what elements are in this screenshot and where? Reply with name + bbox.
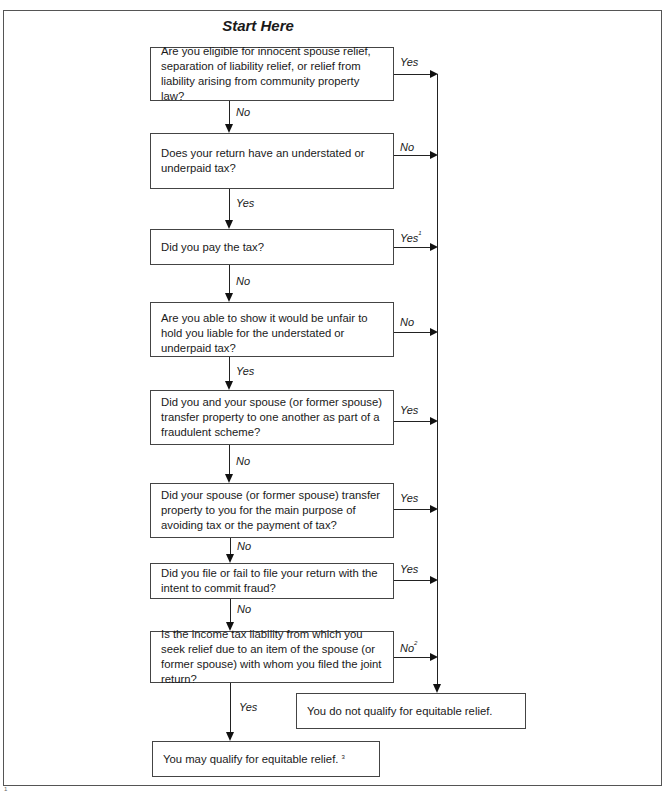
connector-down-4 bbox=[229, 357, 230, 382]
question-box-1: Are you eligible for innocent spouse rel… bbox=[150, 47, 394, 101]
right-label-2: No bbox=[400, 141, 414, 153]
outcome-text: You may qualify for equitable relief. 3 bbox=[163, 752, 345, 767]
connector-down-5 bbox=[229, 445, 230, 475]
connector-right-2 bbox=[394, 155, 430, 156]
label-text: Yes bbox=[400, 56, 418, 68]
arrow-down-icon bbox=[226, 622, 234, 631]
connector-down-2 bbox=[229, 189, 230, 220]
connector-down-3 bbox=[229, 265, 230, 294]
footnote-ref: 2 bbox=[414, 640, 417, 646]
down-label-2: Yes bbox=[236, 197, 254, 209]
footnote-marker: 1 bbox=[4, 786, 7, 792]
label-text: Yes bbox=[400, 563, 418, 575]
outcome-may-qualify: You may qualify for equitable relief. 3 bbox=[152, 741, 380, 777]
arrow-down-icon bbox=[226, 732, 234, 741]
question-text: Did your spouse (or former spouse) trans… bbox=[161, 488, 383, 533]
arrow-down-icon bbox=[225, 124, 233, 133]
question-box-2: Does your return have an understated or … bbox=[150, 133, 394, 189]
down-label-1: No bbox=[236, 106, 250, 118]
outcome-text-main: You may qualify for equitable relief. bbox=[163, 753, 338, 765]
outcome-not-qualify: You do not qualify for equitable relief. bbox=[296, 693, 526, 729]
spine-connector bbox=[437, 74, 438, 685]
arrow-down-icon bbox=[225, 381, 233, 390]
connector-down-8 bbox=[230, 683, 231, 733]
connector-right-1 bbox=[394, 74, 430, 75]
down-label-7: No bbox=[237, 603, 251, 615]
label-text: Yes bbox=[400, 404, 418, 416]
down-label-5: No bbox=[236, 455, 250, 467]
label-text: Yes bbox=[400, 232, 418, 244]
label-text: No bbox=[400, 316, 414, 328]
question-box-4: Are you able to show it would be unfair … bbox=[150, 302, 394, 357]
question-box-5: Did you and your spouse (or former spous… bbox=[150, 390, 394, 445]
question-box-3: Did you pay the tax? bbox=[150, 229, 394, 265]
question-text: Did you file or fail to file your return… bbox=[161, 566, 383, 596]
label-text: Yes bbox=[400, 492, 418, 504]
arrow-down-icon bbox=[225, 293, 233, 302]
right-label-5: Yes bbox=[400, 404, 418, 416]
label-text: No bbox=[400, 642, 414, 654]
connector-right-5 bbox=[394, 421, 430, 422]
connector-right-3 bbox=[394, 247, 430, 248]
question-text: Are you able to show it would be unfair … bbox=[161, 311, 383, 356]
label-text: No bbox=[400, 141, 414, 153]
question-text: Is the income tax liability from which y… bbox=[161, 627, 383, 687]
connector-down-6 bbox=[230, 538, 231, 555]
question-text: Does your return have an understated or … bbox=[161, 146, 383, 176]
down-label-4: Yes bbox=[236, 365, 254, 377]
connector-down-7 bbox=[230, 599, 231, 623]
connector-right-7 bbox=[394, 580, 430, 581]
down-label-3: No bbox=[236, 275, 250, 287]
right-label-7: Yes bbox=[400, 563, 418, 575]
down-label-8: Yes bbox=[239, 701, 257, 713]
start-here-title: Start Here bbox=[198, 17, 318, 34]
connector-right-6 bbox=[394, 509, 430, 510]
arrow-down-icon bbox=[433, 684, 441, 693]
connector-right-4 bbox=[394, 332, 430, 333]
right-label-3: Yes1 bbox=[400, 232, 422, 244]
outcome-text: You do not qualify for equitable relief. bbox=[307, 704, 492, 719]
right-label-1: Yes bbox=[400, 56, 418, 68]
question-box-7: Did you file or fail to file your return… bbox=[150, 563, 394, 599]
arrow-down-icon bbox=[226, 554, 234, 563]
question-text: Are you eligible for innocent spouse rel… bbox=[161, 44, 383, 104]
arrow-down-icon bbox=[225, 220, 233, 229]
footnote-ref: 1 bbox=[418, 230, 421, 236]
question-text: Did you pay the tax? bbox=[161, 240, 264, 255]
arrow-down-icon bbox=[225, 474, 233, 483]
down-label-6: No bbox=[237, 540, 251, 552]
question-text: Did you and your spouse (or former spous… bbox=[161, 395, 383, 440]
right-label-6: Yes bbox=[400, 492, 418, 504]
right-label-4: No bbox=[400, 316, 414, 328]
connector-right-8 bbox=[394, 657, 430, 658]
question-box-8: Is the income tax liability from which y… bbox=[150, 631, 394, 683]
connector-down-1 bbox=[229, 101, 230, 125]
question-box-6: Did your spouse (or former spouse) trans… bbox=[150, 483, 394, 538]
right-label-8: No2 bbox=[400, 642, 417, 654]
footnote-ref: 3 bbox=[342, 754, 345, 760]
